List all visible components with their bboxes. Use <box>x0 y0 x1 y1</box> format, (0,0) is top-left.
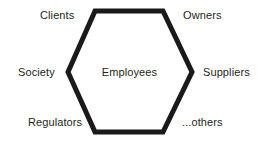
node-label-others: ...others <box>182 116 223 129</box>
node-label-owners: Owners <box>183 9 222 22</box>
node-label-clients: Clients <box>40 9 74 22</box>
stakeholder-hexagon-diagram: Employees Clients Owners Society Supplie… <box>0 0 259 141</box>
node-label-regulators: Regulators <box>28 116 82 129</box>
node-label-society: Society <box>18 66 55 79</box>
node-label-suppliers: Suppliers <box>203 66 250 79</box>
